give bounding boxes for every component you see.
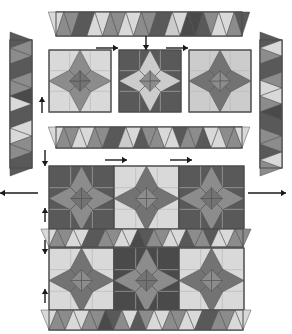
quilt-inner-sashing (41, 229, 251, 247)
arrow-attach-right-border-head (281, 190, 286, 196)
quilt-block-r1c1 (49, 166, 114, 231)
diagram-canvas (0, 0, 292, 334)
middle-sashing-strip (48, 127, 250, 148)
quilt-block-r2c3 (179, 248, 244, 313)
arrow-row-join-right-1 (105, 157, 127, 163)
star-block-center (119, 50, 181, 112)
arrow-left-seam-up-1 (39, 97, 45, 113)
arrow-join-left-block-right-head (113, 45, 118, 51)
arrow-attach-right-border (248, 190, 286, 196)
quilt-block-r2c1 (49, 248, 114, 313)
arrow-row-join-right-2 (170, 157, 192, 163)
arrow-left-seam-up-1-head (39, 97, 45, 102)
top-sashing-strip (48, 12, 250, 36)
arrow-row-join-right-2-head (187, 157, 192, 163)
arrow-attach-left-border-head (0, 190, 5, 196)
arrow-left-seam-up-3-head (42, 289, 48, 294)
arrow-join-top-sashing-down (143, 36, 149, 50)
right-border-strip (260, 32, 282, 176)
quilt-block-r1c3 (179, 166, 244, 231)
arrow-left-seam-down-2-head (42, 249, 48, 254)
arrow-attach-left-border (0, 190, 38, 196)
arrow-row-join-right-1-head (122, 157, 127, 163)
arrow-left-seam-up-2-head (42, 208, 48, 213)
quilt-assembly-diagram (0, 0, 292, 334)
arrow-left-seam-up-3 (42, 289, 48, 303)
quilt-block-r1c2 (114, 166, 179, 231)
quilt-bottom-sashing (41, 310, 251, 330)
arrow-left-seam-up-2 (42, 208, 48, 222)
quilt-block-r2c2 (114, 248, 179, 313)
left-border-strip (10, 32, 32, 176)
star-block-left (49, 50, 111, 112)
star-block-right (189, 50, 251, 112)
arrow-left-seam-down-1 (42, 150, 48, 166)
arrow-left-seam-down-1-head (42, 161, 48, 166)
arrow-join-right-block-left-head (183, 45, 188, 51)
arrow-join-top-sashing-down-head (143, 45, 149, 50)
